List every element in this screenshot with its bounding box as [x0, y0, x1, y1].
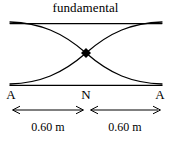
dimension-arrow-left [13, 106, 84, 114]
dimension-arrow-right [91, 106, 161, 114]
dimension-label-right: 0.60 m [88, 120, 162, 134]
node-label-center: N [77, 88, 95, 101]
antinode-label-left: A [2, 88, 20, 101]
antinode-label-right: A [151, 88, 169, 101]
figure-root: fundamental A N A 0.60 m 0.60 m [0, 0, 171, 143]
dimension-label-left: 0.60 m [10, 120, 86, 134]
